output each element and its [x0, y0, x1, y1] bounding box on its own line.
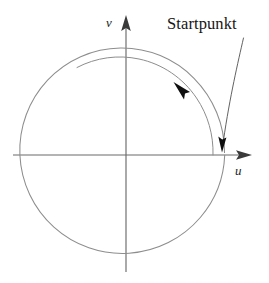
u-axis-label: u — [235, 164, 242, 177]
diagram-canvas — [0, 0, 269, 283]
startpunkt-leader-line — [224, 38, 244, 140]
axes-group — [13, 15, 252, 272]
phase-plane-diagram: v u Startpunkt — [0, 0, 269, 283]
startpunkt-annotation-label: Startpunkt — [167, 15, 237, 32]
orbit-inner-arc — [77, 57, 213, 155]
v-axis-label: v — [106, 16, 112, 29]
arrow-curved-icon — [174, 82, 191, 100]
orbit-outer-circle — [20, 48, 225, 253]
trajectory-group — [20, 48, 225, 253]
arrow-down-icon — [218, 137, 226, 153]
annotation-leader-group — [218, 38, 243, 153]
